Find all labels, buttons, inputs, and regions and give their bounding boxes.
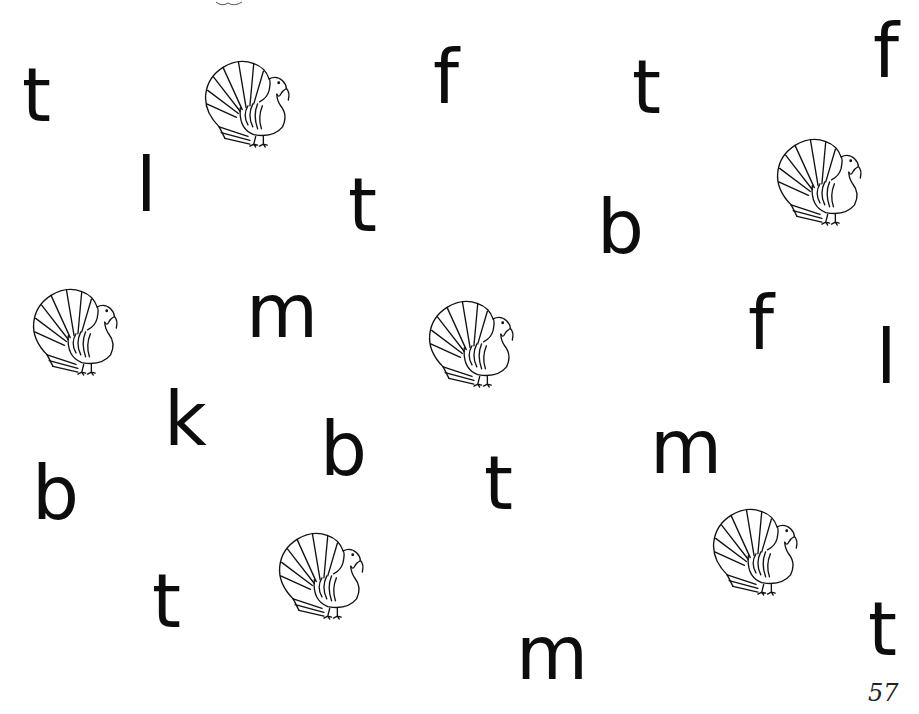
turkey-icon [274, 524, 370, 620]
letter-t: t [152, 564, 181, 638]
letter-k: k [164, 382, 207, 456]
letter-l: l [876, 320, 897, 394]
turkey-icon [708, 500, 804, 596]
page-number: 57 [868, 679, 899, 707]
decorative-scrap-icon [214, 0, 244, 8]
letter-m: m [516, 616, 588, 690]
letter-m: m [246, 274, 318, 348]
letter-t: t [632, 50, 661, 124]
turkey-icon [28, 280, 124, 376]
turkey-icon [424, 292, 520, 388]
letter-m: m [650, 410, 722, 484]
letter-t: t [348, 168, 377, 242]
letter-f: f [433, 40, 459, 114]
letter-l: l [136, 148, 157, 222]
letter-t: t [868, 592, 897, 666]
letter-b: b [597, 190, 644, 264]
letter-b: b [320, 412, 367, 486]
turkey-icon [772, 130, 868, 226]
turkey-icon [200, 52, 296, 148]
letter-f: f [873, 14, 899, 88]
letter-b: b [32, 456, 79, 530]
letter-t: t [22, 58, 51, 132]
letter-f: f [748, 286, 774, 360]
letter-t: t [484, 446, 513, 520]
